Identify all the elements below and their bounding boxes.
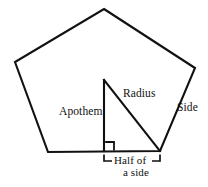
bracket-right-tick-icon [152, 155, 160, 162]
polygon-diagram: Apothem Radius Side Half of a side [0, 0, 208, 187]
half-of-a-side-label-line1: Half of [114, 155, 146, 167]
radius-label: Radius [123, 87, 156, 99]
half-of-a-side-label-line2: a side [123, 167, 149, 179]
bracket-left-tick-icon [104, 155, 112, 162]
right-angle-marker-icon [105, 142, 114, 151]
polygon-svg [0, 0, 208, 187]
apothem-label: Apothem [59, 105, 103, 117]
side-label: Side [177, 101, 198, 113]
